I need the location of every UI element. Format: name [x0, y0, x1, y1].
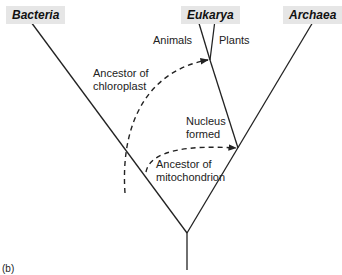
nucleus-line1: Nucleus	[186, 115, 226, 128]
branch-label-plants: Plants	[219, 34, 250, 47]
domain-label-eukarya: Eukarya	[181, 6, 240, 24]
chloroplast-annotation: Ancestor of chloroplast	[93, 67, 149, 93]
branch-label-animals: Animals	[153, 34, 192, 47]
mito-line2: mitochondrion	[156, 171, 225, 184]
nucleus-line2: formed	[186, 128, 226, 141]
chloroplast-line1: Ancestor of	[93, 67, 149, 80]
mito-line1: Ancestor of	[156, 158, 225, 171]
chloroplast-line2: chloroplast	[93, 80, 149, 93]
domain-label-archaea: Archaea	[283, 6, 342, 24]
domain-label-bacteria: Bacteria	[6, 6, 65, 24]
panel-label: (b)	[2, 262, 14, 275]
plants-branch	[210, 20, 215, 60]
nucleus-annotation: Nucleus formed	[186, 115, 226, 141]
animals-branch	[198, 20, 210, 60]
mitochondrion-annotation: Ancestor of mitochondrion	[156, 158, 225, 184]
bacteria-branch	[31, 22, 187, 233]
